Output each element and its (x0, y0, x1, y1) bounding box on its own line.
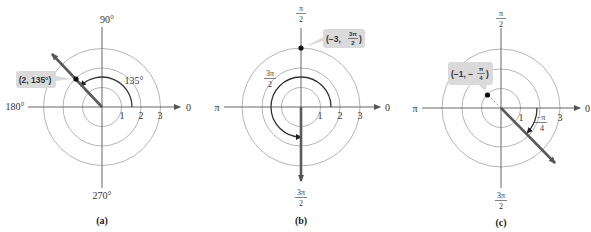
point-callout: (−1, − π 4 ) (448, 62, 493, 91)
axis-label-top-den: 2 (299, 15, 303, 24)
axis-label-top-num: π (499, 9, 503, 18)
axis-label-bottom-den: 2 (299, 199, 303, 208)
point-label: (2, 135°) (19, 75, 52, 85)
panel-caption: (b) (295, 215, 307, 227)
ring-label-1: 1 (318, 110, 323, 121)
axis-label-left: 180° (6, 101, 25, 112)
angle-label-den: 4 (540, 124, 544, 133)
axis-label-bottom-den: 2 (499, 202, 503, 211)
point-label-suffix: ) (486, 69, 489, 79)
point-callout: (−3, 3π 2 ) (305, 29, 365, 48)
panel-caption: (c) (495, 217, 506, 229)
dashed-reference-line (488, 95, 501, 108)
axis-label-left: π (412, 103, 417, 114)
panel-b: (−3, 3π 2 ) π 2 π 0 3π 2 1 2 3 3π 2 (b) (214, 4, 390, 227)
point-label-prefix: (−1, − (451, 69, 473, 79)
axis-label-left: π (214, 102, 219, 113)
point-label-prefix: (−3, (326, 34, 341, 44)
axis-label-bottom-num: 3π (497, 191, 505, 200)
axis-label-right: 0 (585, 103, 590, 114)
ring-label-2: 2 (139, 110, 144, 121)
axis-label-bottom-num: 3π (297, 188, 305, 197)
ring-label-3: 3 (158, 110, 163, 121)
axis-label-right: 0 (186, 102, 191, 113)
ring-label-2: 2 (338, 110, 343, 121)
panel-c: (−1, − π 4 ) π 2 π 0 3π 2 1 3 −π 4 (c) (412, 9, 590, 229)
terminal-ray (501, 108, 555, 163)
axis-label-top-den: 2 (499, 20, 503, 29)
axis-label-top: 90° (100, 14, 114, 25)
panel-caption: (a) (96, 215, 108, 227)
ring-label-3: 3 (558, 112, 563, 123)
plotted-point (298, 45, 303, 50)
point-label-num: π (479, 66, 484, 72)
angle-arc (527, 108, 537, 133)
plotted-point (73, 76, 78, 81)
angle-label-den: 2 (268, 80, 272, 89)
axis-label-bottom: 270° (93, 190, 112, 201)
ring-label-3: 3 (358, 110, 363, 121)
angle-label-num: 3π (266, 69, 274, 78)
angle-label-num: −π (537, 113, 546, 122)
ring-label-1: 1 (120, 110, 125, 121)
point-callout: (2, 135°) (16, 71, 72, 88)
angle-label: 135° (125, 75, 144, 86)
axis-label-top-num: π (299, 4, 303, 13)
point-label-suffix: ) (359, 34, 362, 44)
axis-label-right: 0 (385, 102, 390, 113)
ring-label-1: 1 (519, 112, 524, 123)
plotted-point (485, 92, 490, 97)
point-label-num: 3π (349, 31, 357, 37)
polar-figure: (2, 135°) 90° 180° 0 270° 1 2 3 135° (a)… (0, 0, 591, 232)
panel-a: (2, 135°) 90° 180° 0 270° 1 2 3 135° (a) (6, 14, 192, 227)
